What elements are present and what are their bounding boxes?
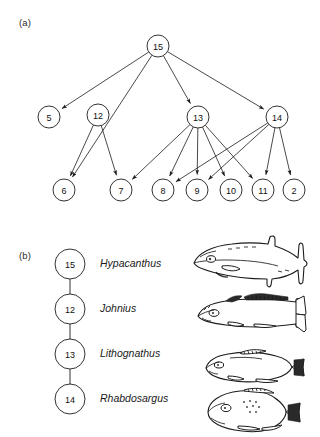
legend-node-label: 14 [65,395,75,405]
fish-illustration-steenbras [200,346,310,388]
taxon-name-johnius: Johnius [100,302,136,314]
figure-root: (a) (b) 155121314678910112 15121314 Hypa… [0,0,320,437]
legend-node-15[interactable]: 15 [55,249,85,279]
legend-node-label: 13 [65,350,75,360]
legend-node-label: 15 [65,260,75,270]
legend-node-13[interactable]: 13 [55,339,85,369]
fish-illustration-croaker [192,288,314,340]
legend-node-label: 12 [65,305,75,315]
taxon-name-rhabdosargus: Rhabdosargus [100,392,168,404]
fish-illustration-queenfish [186,233,312,289]
taxon-name-hypacanthus: Hypacanthus [100,257,161,269]
fish-illustration-bream [200,386,310,434]
taxon-name-lithognathus: Lithognathus [100,347,160,359]
legend-node-12[interactable]: 12 [55,294,85,324]
legend-node-14[interactable]: 14 [55,384,85,414]
